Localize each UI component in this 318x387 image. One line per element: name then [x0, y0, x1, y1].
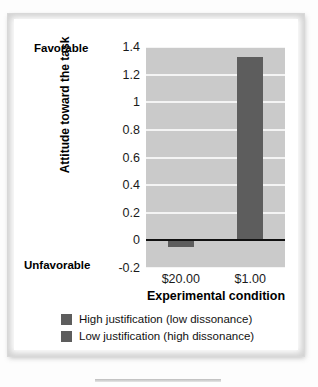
y-tick-label: 0.4 — [100, 179, 140, 191]
legend: High justification (low dissonance)Low j… — [61, 313, 254, 347]
y-axis-title: Attitude toward the task — [58, 35, 72, 175]
plot-area — [146, 47, 285, 268]
gridline — [146, 184, 285, 186]
y-tick-label: 1.4 — [100, 41, 140, 53]
y-tick-label: 1.2 — [100, 69, 140, 81]
legend-swatch-icon — [61, 331, 72, 342]
x-tick-label: $1.00 — [215, 272, 285, 286]
gridline — [146, 101, 285, 103]
gridline — [146, 212, 285, 214]
gridline — [146, 74, 285, 76]
y-tick-label: 0.2 — [100, 207, 140, 219]
y-tick-label: 1 — [100, 96, 140, 108]
scan-artifact-line — [95, 379, 221, 382]
unfavorable-label: Unfavorable — [24, 259, 90, 271]
y-tick-label: 0.8 — [100, 124, 140, 136]
figure-root: Favorable Unfavorable Attitude toward th… — [0, 0, 318, 387]
zero-axis-line — [146, 239, 285, 241]
legend-item: High justification (low dissonance) — [61, 313, 254, 325]
legend-swatch-icon — [61, 314, 72, 325]
x-axis-title: Experimental condition — [140, 289, 292, 303]
y-tick-label: -0.2 — [100, 262, 140, 274]
legend-label: High justification (low dissonance) — [79, 313, 252, 325]
x-tick-label: $20.00 — [146, 272, 216, 286]
gridline — [146, 47, 285, 48]
y-tick-label: 0 — [100, 234, 140, 246]
gridline — [146, 129, 285, 131]
bar-100 — [237, 57, 263, 241]
bar-2000 — [168, 240, 194, 247]
legend-label: Low justification (high dissonance) — [79, 330, 254, 342]
gridline — [146, 157, 285, 159]
gridline — [146, 267, 285, 268]
y-tick-label: 0.6 — [100, 152, 140, 164]
legend-item: Low justification (high dissonance) — [61, 330, 254, 342]
